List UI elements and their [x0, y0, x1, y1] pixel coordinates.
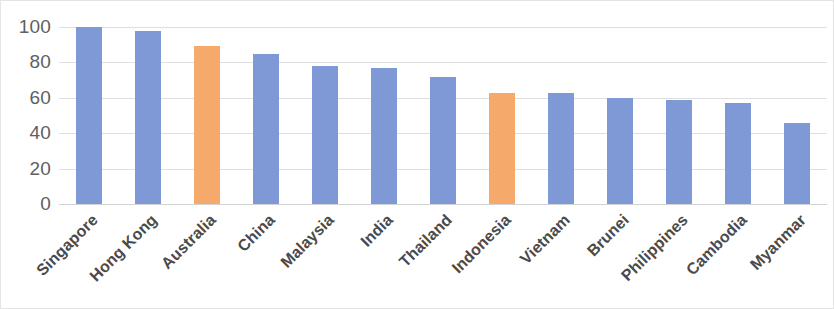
y-axis-tick-label: 40: [7, 122, 51, 144]
bar-slot: [725, 27, 751, 204]
plot-area: [59, 27, 827, 204]
y-axis-tick-label: 100: [7, 16, 51, 38]
bar-slot: [607, 27, 633, 204]
bar: [725, 103, 751, 204]
bar-slot: [76, 27, 102, 204]
x-label-slot: Malaysia: [295, 204, 354, 309]
bar: [135, 31, 161, 204]
bar-slot: [371, 27, 397, 204]
bar: [371, 68, 397, 204]
x-label-slot: Myanmar: [768, 204, 827, 309]
bar: [312, 66, 338, 204]
y-axis-tick-label: 60: [7, 87, 51, 109]
bar-slot: [666, 27, 692, 204]
x-axis-label: India: [357, 211, 396, 250]
x-label-slot: Australia: [177, 204, 236, 309]
bar: [489, 93, 515, 205]
bar: [76, 27, 102, 204]
x-axis-label: China: [234, 211, 279, 256]
x-axis-label: Brunei: [584, 211, 633, 260]
x-axis-category-labels: SingaporeHong KongAustraliaChinaMalaysia…: [59, 204, 827, 309]
y-axis-tick-label: 80: [7, 51, 51, 73]
bar-slot: [312, 27, 338, 204]
bar-chart: 100806040200 SingaporeHong KongAustralia…: [0, 0, 834, 309]
bar-slot: [135, 27, 161, 204]
bar-slot: [253, 27, 279, 204]
bar-slot: [489, 27, 515, 204]
bar-slot: [194, 27, 220, 204]
bar: [607, 98, 633, 204]
bar-slot: [784, 27, 810, 204]
bar-series: [59, 27, 827, 204]
bar-slot: [548, 27, 574, 204]
bar: [666, 100, 692, 204]
bar: [194, 46, 220, 204]
x-label-slot: Vietnam: [532, 204, 591, 309]
y-axis-tick-label: 0: [7, 193, 51, 215]
bar: [548, 93, 574, 205]
bar: [253, 54, 279, 204]
bar: [430, 77, 456, 204]
y-axis: 100806040200: [1, 27, 51, 204]
bar: [784, 123, 810, 204]
y-axis-tick-label: 20: [7, 158, 51, 180]
bar-slot: [430, 27, 456, 204]
